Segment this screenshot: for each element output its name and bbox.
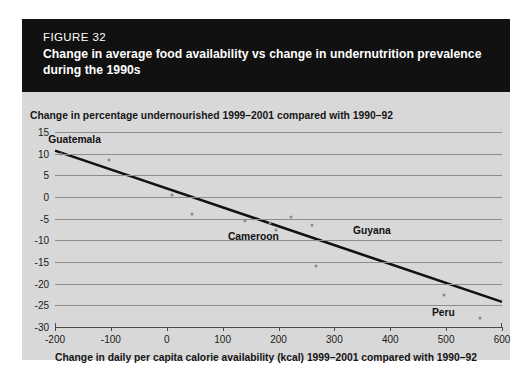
x-axis-tick-label: -100 — [101, 334, 121, 345]
point-label: Cameroon — [228, 231, 279, 242]
x-axis-tick-label: 300 — [326, 334, 343, 345]
trend-line — [55, 132, 502, 327]
data-point — [315, 265, 318, 268]
data-point — [269, 222, 272, 225]
y-gridline — [55, 262, 502, 263]
x-axis-tick-mark — [446, 327, 447, 331]
data-point — [190, 213, 193, 216]
y-axis-title: Change in percentage undernourished 1999… — [30, 110, 393, 121]
y-gridline — [55, 219, 502, 220]
x-axis-tick-label: 0 — [164, 334, 170, 345]
y-axis-tick-label: -25 — [35, 300, 49, 311]
data-point — [478, 317, 481, 320]
data-point — [59, 152, 62, 155]
y-gridline — [55, 132, 502, 133]
x-axis-tick-label: 100 — [214, 334, 231, 345]
x-axis-tick-label: 500 — [438, 334, 455, 345]
data-point — [311, 224, 314, 227]
x-axis-tick-mark — [55, 327, 56, 331]
plot-area: 151050-5-10-15-20-25-30-200-100010020030… — [55, 132, 502, 327]
figure-number: FIGURE 32 — [43, 30, 510, 45]
data-point — [289, 215, 292, 218]
point-label: Guyana — [353, 224, 391, 235]
x-axis-tick-label: 200 — [270, 334, 287, 345]
y-gridline — [55, 284, 502, 285]
data-point — [443, 293, 446, 296]
data-point — [243, 219, 246, 222]
y-axis-tick-label: 10 — [38, 148, 49, 159]
y-axis-tick-label: -30 — [35, 322, 49, 333]
point-label: Guatemala — [48, 133, 101, 144]
x-axis-tick-mark — [279, 327, 280, 331]
x-axis-tick-mark — [334, 327, 335, 331]
y-gridline — [55, 197, 502, 198]
x-axis-tick-label: 600 — [494, 334, 511, 345]
x-axis-tick-label: 400 — [382, 334, 399, 345]
y-axis-tick-label: 5 — [43, 170, 49, 181]
data-point — [171, 193, 174, 196]
y-axis-tick-label: -10 — [35, 235, 49, 246]
title-banner: FIGURE 32 Change in average food availab… — [22, 19, 510, 92]
x-axis-tick-label: -200 — [45, 334, 65, 345]
x-axis-tick-mark — [223, 327, 224, 331]
y-axis-tick-label: 0 — [43, 192, 49, 203]
y-gridline — [55, 154, 502, 155]
x-axis-tick-mark — [390, 327, 391, 331]
x-axis-title: Change in daily per capita calorie avail… — [22, 352, 510, 363]
figure-title: Change in average food availability vs c… — [43, 47, 495, 78]
y-axis-tick-label: -5 — [40, 213, 49, 224]
x-axis-tick-mark — [167, 327, 168, 331]
trend-line-segment — [55, 151, 502, 302]
figure-page: FIGURE 32 Change in average food availab… — [0, 0, 532, 380]
y-axis-tick-label: -20 — [35, 278, 49, 289]
y-axis-tick-label: -15 — [35, 257, 49, 268]
y-gridline — [55, 175, 502, 176]
x-axis-tick-mark — [502, 327, 503, 331]
point-label: Peru — [432, 306, 455, 317]
x-axis-tick-mark — [111, 327, 112, 331]
data-point — [108, 159, 111, 162]
